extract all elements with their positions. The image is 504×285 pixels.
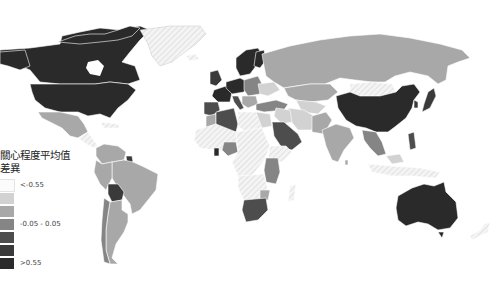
country-kenya-tanzania [264, 158, 280, 184]
legend-label: -0.05 - 0.05 [20, 219, 61, 230]
country-korea [414, 100, 418, 108]
legend-swatch [0, 206, 14, 217]
legend-swatch [0, 180, 14, 191]
legend-label: >0.55 [20, 258, 41, 269]
country-ukraine [258, 82, 280, 96]
country-ghana [214, 148, 219, 156]
country-malaysia [386, 154, 404, 164]
country-australia [396, 182, 458, 230]
country-uk-ireland [210, 70, 222, 86]
legend-title-line2: 差異 [0, 162, 80, 175]
country-greenland [140, 26, 206, 66]
legend-swatch [0, 193, 14, 204]
country-southeast-asia [362, 130, 386, 156]
legend-item [0, 232, 80, 245]
country-kazakhstan [284, 84, 338, 102]
legend-label: <-0.55 [20, 180, 44, 191]
country-philippines [408, 132, 416, 150]
legend-items: <-0.55-0.05 - 0.05>0.55 [0, 180, 80, 271]
legend-item: >0.55 [0, 258, 80, 271]
country-sri-lanka [345, 160, 348, 165]
legend-item [0, 206, 80, 219]
legend-item [0, 193, 80, 206]
country-south-africa [242, 198, 268, 222]
caribbean [100, 122, 120, 128]
legend-title-line1: 關心程度平均值 [0, 149, 80, 162]
legend-swatch [0, 258, 14, 269]
legend-item: <-0.55 [0, 180, 80, 193]
country-japan [422, 88, 436, 112]
country-iraq-syria [274, 108, 292, 124]
legend-swatch [0, 245, 14, 256]
country-mexico [38, 112, 88, 138]
country-alaska [0, 50, 30, 70]
country-tasmania [438, 232, 444, 238]
country-russia [262, 34, 470, 88]
legend-item: -0.05 - 0.05 [0, 219, 80, 232]
legend: 關心程度平均值 差異 <-0.55-0.05 - 0.05>0.55 [0, 149, 80, 271]
legend-swatch [0, 219, 14, 230]
country-madagascar [288, 184, 296, 202]
country-new-zealand [470, 222, 490, 240]
country-nigeria [222, 142, 238, 156]
legend-swatch [0, 232, 14, 243]
country-india [322, 124, 354, 162]
country-iceland [186, 54, 199, 61]
country-uruguay [128, 218, 134, 224]
country-indonesia [368, 164, 440, 178]
country-balkans [242, 96, 258, 108]
legend-item [0, 245, 80, 258]
